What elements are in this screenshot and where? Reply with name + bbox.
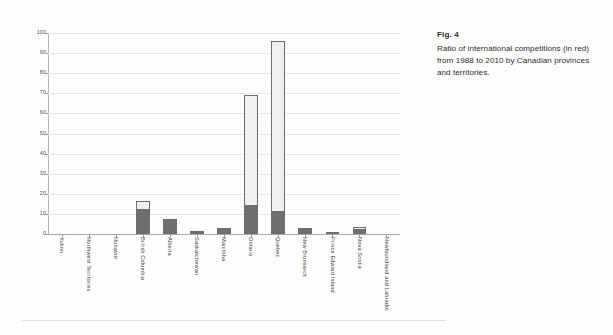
bar-segment-international	[245, 205, 257, 233]
y-tick-label-10: 10	[2, 211, 46, 216]
bar-column[interactable]	[55, 33, 69, 234]
y-tick-label-50: 50	[2, 131, 46, 136]
bar-column[interactable]	[217, 33, 231, 234]
x-axis-label: Northwest Territories	[85, 237, 91, 291]
y-tick-mark-0	[46, 234, 49, 235]
bar-column[interactable]	[190, 33, 204, 234]
y-tick-label-40: 40	[2, 151, 46, 156]
x-axis-label: Saskatchewan	[194, 237, 200, 275]
y-tick-mark-40	[46, 154, 49, 155]
y-tick-mark-100	[46, 33, 49, 34]
x-axis-label: Alberta	[166, 237, 172, 256]
y-tick-label-80: 80	[2, 70, 46, 75]
bar-stack[interactable]	[163, 219, 177, 234]
y-tick-label-100: 100	[2, 30, 46, 35]
x-axis-label: Ontario	[248, 237, 254, 256]
figure-caption: Fig. 4 Ratio of international competitio…	[437, 30, 605, 79]
figure-page: 0102030405060708090100 YukonNorthwest Te…	[0, 0, 613, 335]
y-tick-mark-80	[46, 73, 49, 74]
x-axis-label: Yukon	[58, 237, 64, 253]
y-tick-mark-70	[46, 93, 49, 94]
figure-caption-body: Ratio of international competitions (in …	[437, 43, 605, 79]
bar-column[interactable]	[244, 33, 258, 234]
y-tick-label-60: 60	[2, 110, 46, 115]
bar-segment-international	[354, 229, 366, 233]
bar-column[interactable]	[163, 33, 177, 234]
bar-column[interactable]	[298, 33, 312, 234]
y-tick-label-70: 70	[2, 90, 46, 95]
bar-segment-international	[164, 219, 176, 233]
bar-column[interactable]	[136, 33, 150, 234]
y-tick-label-30: 30	[2, 171, 46, 176]
bar-segment-international	[191, 232, 203, 233]
x-axis-label: Prince Edward Island	[329, 237, 335, 293]
bar-column[interactable]	[109, 33, 123, 234]
bar-segment-international	[137, 209, 149, 233]
chart-panel: 0102030405060708090100 YukonNorthwest Te…	[0, 0, 430, 335]
y-tick-mark-50	[46, 134, 49, 135]
bar-stack[interactable]	[244, 95, 258, 234]
y-tick-mark-20	[46, 194, 49, 195]
plot-area	[48, 33, 400, 234]
bar-column[interactable]	[326, 33, 340, 234]
y-tick-mark-10	[46, 214, 49, 215]
x-axis-label: Nova Scotia	[356, 237, 362, 269]
x-axis-label: British Columbia	[139, 237, 145, 280]
page-divider-rule	[22, 320, 446, 321]
x-axis-label: Manitoba	[221, 237, 227, 261]
bar-column[interactable]	[271, 33, 285, 234]
bar-column[interactable]	[82, 33, 96, 234]
y-tick-label-90: 90	[2, 50, 46, 55]
bar-stack[interactable]	[136, 201, 150, 234]
figure-caption-title: Fig. 4	[437, 30, 605, 41]
x-axis-label: New Brunswick	[302, 237, 308, 277]
y-tick-mark-30	[46, 174, 49, 175]
bar-stack[interactable]	[271, 41, 285, 234]
y-tick-label-20: 20	[2, 191, 46, 196]
x-axis-label: Newfoundland and Labrador	[383, 237, 389, 311]
x-axis-label: Nunavut	[112, 237, 118, 259]
bar-segment-international	[327, 232, 339, 233]
bar-column[interactable]	[380, 33, 394, 234]
bar-segment-international	[299, 229, 311, 233]
y-tick-mark-90	[46, 53, 49, 54]
plot-wrapper: 0102030405060708090100	[48, 33, 400, 234]
x-axis-labels: YukonNorthwest TerritoriesNunavutBritish…	[48, 237, 400, 332]
bar-segment-international	[272, 211, 284, 233]
y-tick-label-0: 0	[2, 231, 46, 236]
bar-stack[interactable]	[353, 227, 367, 234]
x-axis-label: Quebec	[275, 237, 281, 258]
bar-column[interactable]	[353, 33, 367, 234]
y-tick-mark-60	[46, 113, 49, 114]
bar-segment-international	[218, 229, 230, 233]
